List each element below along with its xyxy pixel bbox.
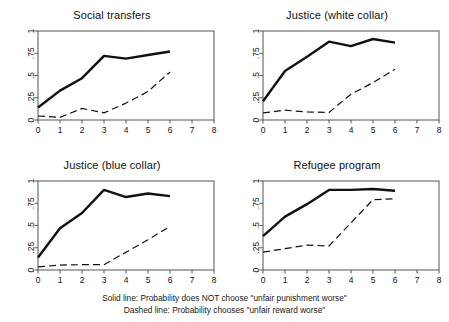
legend-solid-line-description: Solid line: Probability does NOT choose … xyxy=(0,292,449,304)
series-line-solid xyxy=(38,51,170,107)
x-tick-label: 4 xyxy=(124,125,129,135)
panel-refugee-program: Refugee program 0123456780.25.5.751 xyxy=(225,154,449,304)
plot-frame xyxy=(38,31,214,120)
plot-area-refugee-program: 0123456780.25.5.751 xyxy=(225,154,449,304)
panel-justice-white-collar: Justice (white collar) 0123456780.25.5.7… xyxy=(225,4,449,154)
x-tick-label: 6 xyxy=(393,125,398,135)
x-tick-label: 1 xyxy=(58,275,63,285)
x-tick-label: 0 xyxy=(36,275,41,285)
y-tick-label: .25 xyxy=(251,92,261,104)
x-tick-label: 2 xyxy=(305,125,310,135)
y-tick-label: .75 xyxy=(26,197,36,209)
plot-frame xyxy=(263,31,439,120)
series-line-solid xyxy=(38,190,170,258)
x-tick-label: 2 xyxy=(80,275,85,285)
y-tick-label: 0 xyxy=(26,267,36,272)
x-tick-label: 7 xyxy=(415,125,420,135)
series-line-solid xyxy=(263,39,395,101)
x-tick-label: 1 xyxy=(58,125,63,135)
x-tick-label: 3 xyxy=(327,125,332,135)
y-tick-label: .25 xyxy=(26,242,36,254)
y-tick-label: 0 xyxy=(251,267,261,272)
figure-panel-grid: Social transfers 0123456780.25.5.751 Jus… xyxy=(0,0,449,322)
y-tick-label: 1 xyxy=(251,178,261,183)
x-tick-label: 6 xyxy=(168,125,173,135)
y-tick-label: .5 xyxy=(26,72,36,79)
x-tick-label: 6 xyxy=(168,275,173,285)
y-tick-label: 0 xyxy=(251,117,261,122)
x-tick-label: 8 xyxy=(437,275,442,285)
plot-area-justice-blue-collar: 0123456780.25.5.751 xyxy=(0,154,224,304)
x-tick-label: 3 xyxy=(102,125,107,135)
x-tick-label: 0 xyxy=(261,125,266,135)
x-tick-label: 7 xyxy=(415,275,420,285)
x-tick-label: 8 xyxy=(212,275,217,285)
y-tick-label: .5 xyxy=(251,222,261,229)
y-tick-label: .75 xyxy=(251,47,261,59)
y-tick-label: 1 xyxy=(26,178,36,183)
y-tick-label: 1 xyxy=(26,28,36,33)
y-tick-label: .25 xyxy=(251,242,261,254)
y-tick-label: .5 xyxy=(26,222,36,229)
small-multiples-grid: Social transfers 0123456780.25.5.751 Jus… xyxy=(0,0,449,292)
x-tick-label: 2 xyxy=(80,125,85,135)
x-tick-label: 8 xyxy=(437,125,442,135)
plot-area-justice-white-collar: 0123456780.25.5.751 xyxy=(225,4,449,154)
x-tick-label: 3 xyxy=(102,275,107,285)
x-tick-label: 8 xyxy=(212,125,217,135)
x-tick-label: 2 xyxy=(305,275,310,285)
series-line-dashed xyxy=(263,199,395,252)
plot-area-social-transfers: 0123456780.25.5.751 xyxy=(0,4,224,154)
panel-justice-blue-collar: Justice (blue collar) 0123456780.25.5.75… xyxy=(0,154,224,304)
figure-legend-caption: Solid line: Probability does NOT choose … xyxy=(0,292,449,316)
x-tick-label: 6 xyxy=(393,275,398,285)
x-tick-label: 1 xyxy=(283,275,288,285)
x-tick-label: 4 xyxy=(349,275,354,285)
x-tick-label: 5 xyxy=(371,275,376,285)
x-tick-label: 5 xyxy=(371,125,376,135)
y-tick-label: 1 xyxy=(251,28,261,33)
y-tick-label: 0 xyxy=(26,117,36,122)
legend-dashed-line-description: Dashed line: Probability chooses "unfair… xyxy=(0,304,449,316)
x-tick-label: 0 xyxy=(261,275,266,285)
x-tick-label: 7 xyxy=(190,275,195,285)
x-tick-label: 5 xyxy=(146,125,151,135)
x-tick-label: 5 xyxy=(146,275,151,285)
series-line-solid xyxy=(263,189,395,236)
x-tick-label: 3 xyxy=(327,275,332,285)
y-tick-label: .5 xyxy=(251,72,261,79)
y-tick-label: .75 xyxy=(26,47,36,59)
series-line-dashed xyxy=(38,72,170,117)
x-tick-label: 4 xyxy=(124,275,129,285)
panel-social-transfers: Social transfers 0123456780.25.5.751 xyxy=(0,4,224,154)
x-tick-label: 7 xyxy=(190,125,195,135)
x-tick-label: 4 xyxy=(349,125,354,135)
y-tick-label: .75 xyxy=(251,197,261,209)
x-tick-label: 1 xyxy=(283,125,288,135)
y-tick-label: .25 xyxy=(26,92,36,104)
x-tick-label: 0 xyxy=(36,125,41,135)
plot-frame xyxy=(263,181,439,270)
